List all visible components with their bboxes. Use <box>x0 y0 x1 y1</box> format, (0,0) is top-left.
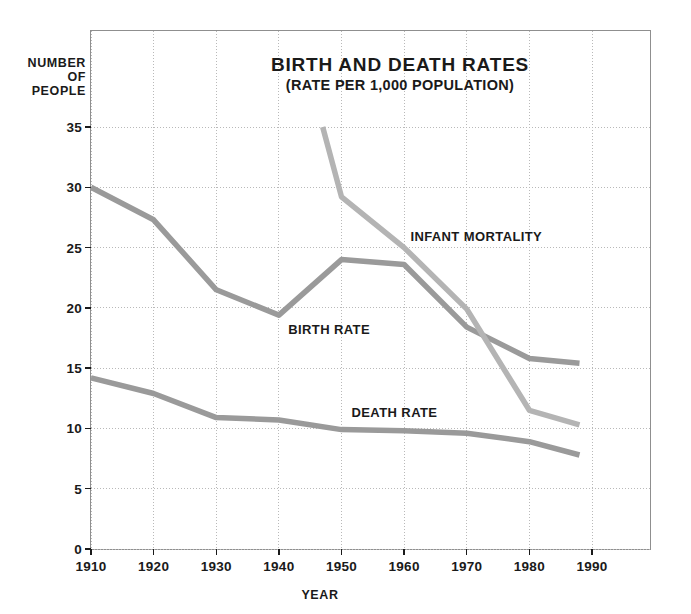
y-tick-label: 10 <box>40 421 82 436</box>
x-tick-label: 1930 <box>201 559 232 574</box>
x-tick-label: 1980 <box>514 559 545 574</box>
y-tick-label: 5 <box>40 481 82 496</box>
x-tick-label: 1990 <box>576 559 607 574</box>
x-tick-label: 1970 <box>451 559 482 574</box>
x-tick-label: 1960 <box>389 559 420 574</box>
chart-figure: NUMBER OF PEOPLE BIRTH AND DEATH RATES (… <box>0 0 691 614</box>
x-tick-label: 1940 <box>263 559 294 574</box>
x-tick-label: 1910 <box>75 559 106 574</box>
y-tick-label: 20 <box>40 300 82 315</box>
x-tick-label: 1920 <box>138 559 169 574</box>
chart-subtitle: (RATE PER 1,000 POPULATION) <box>271 76 529 94</box>
x-axis-label: YEAR <box>301 588 338 602</box>
y-tick-label: 15 <box>40 361 82 376</box>
y-tick-label: 25 <box>40 240 82 255</box>
x-tick-label: 1950 <box>326 559 357 574</box>
chart-title: BIRTH AND DEATH RATES <box>271 54 529 76</box>
y-tick-label: 30 <box>40 180 82 195</box>
series-annotation: BIRTH RATE <box>288 322 370 337</box>
series-annotation: DEATH RATE <box>352 405 438 420</box>
series-annotation: INFANT MORTALITY <box>410 229 542 244</box>
plot-frame <box>91 31 651 550</box>
y-axis-label: NUMBER OF PEOPLE <box>18 56 86 98</box>
y-tick-label: 35 <box>40 120 82 135</box>
title-group: BIRTH AND DEATH RATES (RATE PER 1,000 PO… <box>271 54 529 94</box>
y-tick-label: 0 <box>40 542 82 557</box>
